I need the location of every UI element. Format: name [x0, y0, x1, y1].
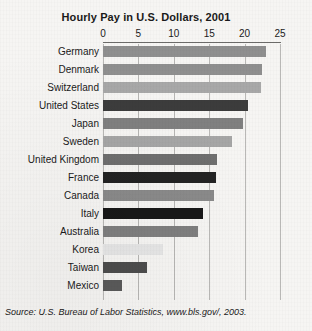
x-axis-tick-labels: 0510152025	[103, 28, 280, 42]
gridline	[280, 44, 281, 300]
x-tick-label: 5	[136, 28, 142, 39]
x-tick-label: 20	[239, 28, 250, 39]
bar-row: Australia	[103, 224, 280, 242]
bar-row: Sweden	[103, 134, 280, 152]
bar	[103, 82, 261, 93]
bar-row: Italy	[103, 206, 280, 224]
source-note: Source: U.S. Bureau of Labor Statistics,…	[5, 307, 247, 317]
category-label: Sweden	[0, 134, 103, 152]
category-label: Mexico	[0, 278, 103, 296]
bar	[103, 64, 262, 75]
bar	[103, 118, 243, 129]
bar-row: France	[103, 170, 280, 188]
x-tick-label: 25	[274, 28, 285, 39]
bar	[103, 262, 147, 273]
category-label: Denmark	[0, 62, 103, 80]
bar	[103, 280, 122, 291]
bar-row: United States	[103, 98, 280, 116]
category-label: Korea	[0, 242, 103, 260]
bar	[103, 46, 266, 57]
bar-row: Korea	[103, 242, 280, 260]
category-label: Canada	[0, 188, 103, 206]
bar	[103, 136, 232, 147]
bar	[103, 100, 248, 111]
bar-row: United Kingdom	[103, 152, 280, 170]
bar	[103, 190, 214, 201]
x-tick-label: 15	[204, 28, 215, 39]
category-label: United Kingdom	[0, 152, 103, 170]
chart-title: Hourly Pay in U.S. Dollars, 2001	[0, 11, 292, 23]
bar	[103, 208, 203, 219]
bar-row: Switzerland	[103, 80, 280, 98]
bar-row: Germany	[103, 44, 280, 62]
category-label: Switzerland	[0, 80, 103, 98]
bar	[103, 226, 198, 237]
bar-row: Denmark	[103, 62, 280, 80]
x-tick-label: 0	[100, 28, 106, 39]
bar	[103, 154, 217, 165]
category-label: Germany	[0, 44, 103, 62]
bar-row: Japan	[103, 116, 280, 134]
chart-figure: Hourly Pay in U.S. Dollars, 2001 0510152…	[0, 0, 312, 331]
bar-row: Taiwan	[103, 260, 280, 278]
x-axis-line	[103, 42, 281, 43]
plot-area: GermanyDenmarkSwitzerlandUnited StatesJa…	[103, 44, 280, 300]
bar-row: Mexico	[103, 278, 280, 296]
category-label: Italy	[0, 206, 103, 224]
bar-row: Canada	[103, 188, 280, 206]
category-label: Australia	[0, 224, 103, 242]
bar	[103, 172, 216, 183]
bar	[103, 244, 163, 255]
category-label: Taiwan	[0, 260, 103, 278]
category-label: France	[0, 170, 103, 188]
category-label: United States	[0, 98, 103, 116]
category-label: Japan	[0, 116, 103, 134]
x-tick-label: 10	[168, 28, 179, 39]
